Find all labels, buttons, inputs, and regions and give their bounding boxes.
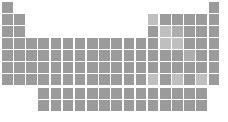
element-cell-p5-g1 [2, 50, 13, 61]
f-block-cell-r1-c12 [172, 88, 183, 99]
element-cell-p3-g18 [209, 26, 220, 37]
element-cell-p6-g3 [26, 62, 37, 73]
element-cell-p7-g14 [160, 74, 171, 85]
f-block-cell-r1-c7 [111, 88, 122, 99]
element-cell-p5-g13 [148, 50, 159, 61]
element-cell-p7-g3 [26, 74, 37, 85]
f-block-cell-r2-c2 [51, 100, 62, 111]
element-cell-p5-g17 [196, 50, 207, 61]
f-block-cell-r1-c13 [184, 88, 195, 99]
element-cell-p7-g8 [87, 74, 98, 85]
f-block-cell-r2-c9 [136, 100, 147, 111]
element-cell-p2-g1 [2, 14, 13, 25]
element-cell-p5-g15 [172, 50, 183, 61]
element-cell-p7-g1 [2, 74, 13, 85]
element-cell-p4-g4 [38, 38, 49, 49]
element-cell-p7-g6 [63, 74, 74, 85]
element-cell-p3-g15 [172, 26, 183, 37]
element-cell-p4-g10 [111, 38, 122, 49]
element-cell-p6-g13 [148, 62, 159, 73]
element-cell-p4-g11 [124, 38, 135, 49]
element-cell-p4-g3 [26, 38, 37, 49]
element-cell-p7-g4 [38, 74, 49, 85]
f-block-cell-r2-c10 [148, 100, 159, 111]
f-block-cell-r1-c4 [75, 88, 86, 99]
element-cell-p4-g7 [75, 38, 86, 49]
periodic-table-grid [0, 0, 228, 122]
element-cell-p7-g2 [14, 74, 25, 85]
element-cell-p5-g3 [26, 50, 37, 61]
element-cell-p1-g1 [2, 2, 13, 13]
element-cell-p4-g2 [14, 38, 25, 49]
element-cell-p6-g6 [63, 62, 74, 73]
element-cell-p6-g10 [111, 62, 122, 73]
element-cell-p6-g18 [209, 62, 220, 73]
element-cell-p4-g9 [99, 38, 110, 49]
f-block-cell-r2-c14 [196, 100, 207, 111]
element-cell-p6-g5 [51, 62, 62, 73]
element-cell-p2-g15 [172, 14, 183, 25]
element-cell-p5-g2 [14, 50, 25, 61]
element-cell-p2-g17 [196, 14, 207, 25]
f-block-cell-r2-c3 [63, 100, 74, 111]
element-cell-p4-g13 [148, 38, 159, 49]
element-cell-p5-g11 [124, 50, 135, 61]
f-block-cell-r2-c11 [160, 100, 171, 111]
element-cell-p5-g16 [184, 50, 195, 61]
element-cell-p6-g1 [2, 62, 13, 73]
element-cell-p4-g6 [63, 38, 74, 49]
element-cell-p4-g14 [160, 38, 171, 49]
f-block-cell-r2-c4 [75, 100, 86, 111]
element-cell-p2-g13 [148, 14, 159, 25]
periodic-table-figure [0, 0, 228, 122]
f-block-cell-r1-c11 [160, 88, 171, 99]
element-cell-p3-g2 [14, 26, 25, 37]
f-block-cell-r1-c10 [148, 88, 159, 99]
f-block-cell-r2-c12 [172, 100, 183, 111]
element-cell-p3-g13 [148, 26, 159, 37]
element-cell-p4-g16 [184, 38, 195, 49]
element-cell-p6-g7 [75, 62, 86, 73]
element-cell-p6-g14 [160, 62, 171, 73]
element-cell-p7-g11 [124, 74, 135, 85]
f-block-cell-r1-c8 [124, 88, 135, 99]
element-cell-p5-g4 [38, 50, 49, 61]
f-block-cell-r1-c2 [51, 88, 62, 99]
element-cell-p6-g9 [99, 62, 110, 73]
element-cell-p6-g17 [196, 62, 207, 73]
element-cell-p7-g5 [51, 74, 62, 85]
element-cell-p7-g12 [136, 74, 147, 85]
f-block-cell-r1-c6 [99, 88, 110, 99]
element-cell-p4-g17 [196, 38, 207, 49]
element-cell-p6-g2 [14, 62, 25, 73]
element-cell-p5-g18 [209, 50, 220, 61]
element-cell-p3-g1 [2, 26, 13, 37]
element-cell-p5-g7 [75, 50, 86, 61]
element-cell-p7-g16 [184, 74, 195, 85]
element-cell-p3-g17 [196, 26, 207, 37]
f-block-cell-r1-c1 [38, 88, 49, 99]
element-cell-p4-g8 [87, 38, 98, 49]
element-cell-p6-g8 [87, 62, 98, 73]
element-cell-p2-g14 [160, 14, 171, 25]
f-block-cell-r1-c14 [196, 88, 207, 99]
element-cell-p2-g18 [209, 14, 220, 25]
f-block-cell-r2-c8 [124, 100, 135, 111]
element-cell-p7-g13 [148, 74, 159, 85]
f-block-cell-r2-c13 [184, 100, 195, 111]
element-cell-p5-g12 [136, 50, 147, 61]
element-cell-p6-g16 [184, 62, 195, 73]
f-block-cell-r1-c5 [87, 88, 98, 99]
f-block-cell-r2-c7 [111, 100, 122, 111]
element-cell-p6-g12 [136, 62, 147, 73]
element-cell-p5-g6 [63, 50, 74, 61]
f-block-cell-r2-c6 [99, 100, 110, 111]
element-cell-p5-g8 [87, 50, 98, 61]
element-cell-p7-g15 [172, 74, 183, 85]
element-cell-p4-g12 [136, 38, 147, 49]
element-cell-p7-g10 [111, 74, 122, 85]
element-cell-p3-g14 [160, 26, 171, 37]
f-block-cell-r2-c1 [38, 100, 49, 111]
element-cell-p7-g17 [196, 74, 207, 85]
element-cell-p3-g16 [184, 26, 195, 37]
